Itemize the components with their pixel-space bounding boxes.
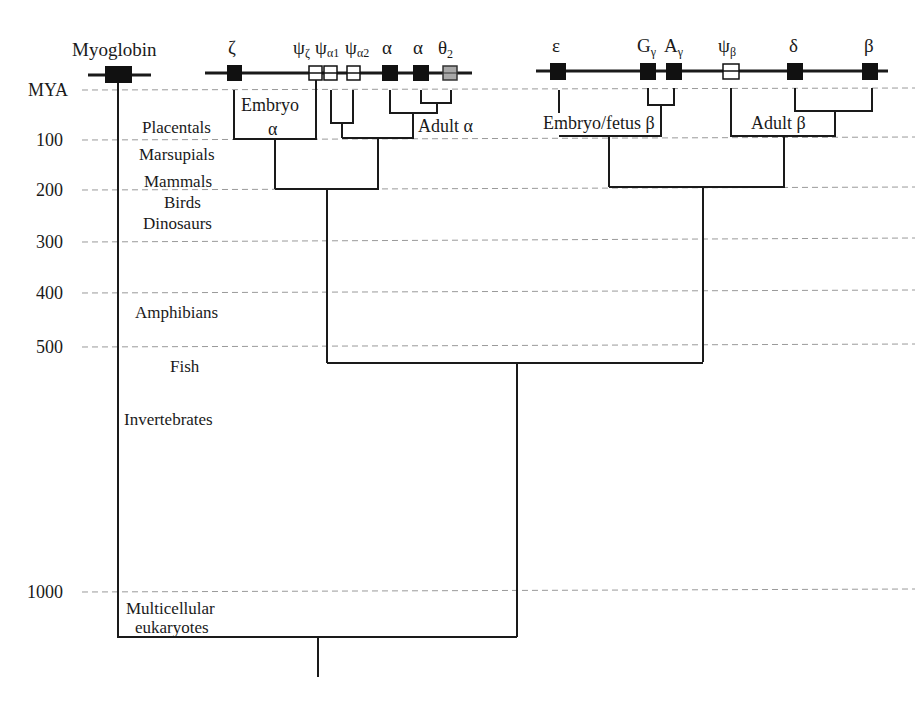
gene-label-a-gamma: Aγ — [664, 35, 684, 59]
chromosome-lines — [88, 71, 888, 75]
taxon-placentals: Placentals — [142, 118, 211, 137]
gene-box-zeta — [227, 65, 242, 81]
axis-tick-300: 300 — [36, 232, 63, 252]
taxon-amphibians: Amphibians — [135, 303, 218, 322]
gene-label-epsilon: ε — [552, 35, 560, 56]
taxon-dinosaurs: Dinosaurs — [143, 214, 212, 233]
taxon-invertebrates: Invertebrates — [124, 410, 213, 429]
gridline-1000 — [82, 589, 915, 592]
gene-box-alpha1 — [413, 65, 429, 81]
branch-adult-alpha — [390, 90, 437, 113]
taxa-labels: Placentals Marsupials Mammals Birds Dino… — [124, 118, 218, 637]
gridline-0 — [82, 88, 915, 90]
taxon-marsupials: Marsupials — [139, 145, 215, 164]
gene-label-psi-alpha2: ψα2 — [345, 37, 369, 60]
time-axis: MYA 100 200 300 400 500 1000 — [27, 80, 68, 602]
axis-tick-1000: 1000 — [27, 582, 63, 602]
gene-box-a-gamma — [666, 63, 682, 80]
group-label-embryo-fetus-beta: Embryo/fetus β — [543, 113, 655, 133]
gene-label-g-gamma: Gγ — [637, 35, 657, 59]
gridline-100 — [82, 137, 915, 140]
group-label-adult-beta: Adult β — [751, 113, 806, 133]
gridline-400 — [82, 290, 915, 293]
phylogenetic-tree — [118, 80, 872, 677]
gene-box-epsilon — [550, 63, 566, 80]
taxon-mammals: Mammals — [144, 172, 212, 191]
taxon-multicellular: Multicellular — [126, 599, 215, 618]
gene-box-alpha2 — [382, 65, 398, 81]
branch-alpha1-theta2 — [421, 90, 451, 103]
gridline-500 — [82, 344, 915, 347]
gene-box-myoglobin — [105, 66, 132, 83]
taxon-birds: Birds — [164, 193, 201, 212]
gene-label-beta: β — [864, 35, 874, 56]
gene-label-zeta: ζ — [228, 37, 236, 58]
globin-phylogeny-diagram: MYA 100 200 300 400 500 1000 Placentals … — [0, 0, 920, 711]
gene-label-alpha2: α — [382, 37, 392, 58]
axis-tick-400: 400 — [36, 283, 63, 303]
branch-gamma — [648, 88, 674, 105]
group-label-embryo-alpha: α — [268, 119, 278, 139]
gene-label-myoglobin: Myoglobin — [72, 39, 157, 60]
gene-box-beta — [862, 63, 878, 80]
group-label-embryo: Embryo — [241, 95, 299, 115]
gene-labels: Myoglobin ζ ψζ ψα1 ψα2 α α θ2 ε Gγ Aγ ψβ… — [72, 35, 874, 61]
branch-delta-beta — [795, 88, 872, 111]
gene-label-psi-alpha1: ψα1 — [315, 37, 339, 60]
gene-box-delta — [787, 63, 803, 80]
taxon-fish: Fish — [170, 357, 200, 376]
branch-psi-alpha — [331, 90, 353, 123]
axis-label-mya: MYA — [28, 80, 68, 100]
group-label-adult-alpha: Adult α — [418, 116, 474, 136]
gridline-300 — [82, 238, 915, 242]
gene-box-g-gamma — [640, 63, 656, 80]
group-labels: Embryo α Adult α Embryo/fetus β Adult β — [241, 95, 806, 139]
axis-tick-200: 200 — [36, 180, 63, 200]
gene-label-theta2: θ2 — [438, 37, 453, 61]
axis-tick-500: 500 — [36, 337, 63, 357]
gene-label-alpha1: α — [413, 37, 423, 58]
gene-label-delta: δ — [789, 35, 798, 56]
taxon-eukaryotes: eukaryotes — [135, 618, 209, 637]
gene-label-psi-beta: ψβ — [718, 35, 736, 59]
gene-label-psi-zeta: ψζ — [293, 37, 310, 60]
axis-tick-100: 100 — [36, 130, 63, 150]
